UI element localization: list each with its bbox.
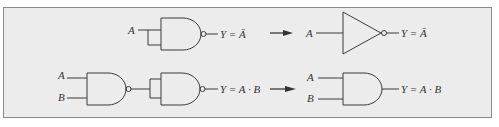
row1-left-output: Y = Ā xyxy=(220,28,246,40)
row1-right-output: Y = Ā xyxy=(401,27,427,39)
row1-arrow-icon xyxy=(270,30,293,36)
row2-and-gate: A B Y = A · B xyxy=(306,71,442,105)
row1-left-input-a: A xyxy=(127,24,135,36)
row2-right-input-a: A xyxy=(306,71,314,83)
and-gate-icon xyxy=(343,73,382,105)
nand-gate-icon xyxy=(87,73,126,105)
row2-right-output: Y = A · B xyxy=(401,83,442,95)
inversion-bubble-icon xyxy=(201,32,206,37)
inversion-bubble-icon xyxy=(200,87,205,92)
row2-nand-nand-as-and: A B Y = A · B xyxy=(57,69,261,105)
logic-diagram: A Y = Ā A Y = Ā A B Y = A · B xyxy=(0,0,499,127)
nand-gate-icon xyxy=(161,18,201,50)
inversion-bubble-icon xyxy=(382,31,387,36)
row1-inverter: A Y = Ā xyxy=(305,12,427,54)
inversion-bubble-icon xyxy=(126,87,131,92)
nand-gate-icon xyxy=(161,73,200,105)
inverter-triangle-icon xyxy=(343,12,381,54)
row2-left-input-b: B xyxy=(58,91,65,103)
row2-arrow-icon xyxy=(270,86,296,92)
row2-right-input-b: B xyxy=(307,92,314,104)
row1-right-input-a: A xyxy=(305,27,313,39)
row1-nand-as-not: A Y = Ā xyxy=(127,18,246,50)
row2-left-input-a: A xyxy=(57,69,65,81)
row2-left-output: Y = A · B xyxy=(220,83,261,95)
